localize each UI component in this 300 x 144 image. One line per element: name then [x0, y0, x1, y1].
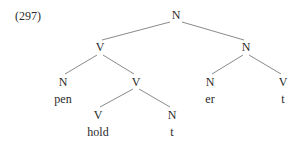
tree-edges [0, 0, 300, 144]
tree-node-v2: V [132, 75, 141, 90]
tree-edge [249, 55, 281, 74]
tree-leaf-word: hold [87, 125, 108, 140]
tree-node-n3: N [206, 75, 215, 90]
tree-edge [212, 55, 243, 74]
tree-node-v1: V [96, 40, 105, 55]
tree-node-n1: N [242, 40, 251, 55]
tree-node-v3: V [279, 75, 288, 90]
tree-edge [182, 22, 244, 40]
tree-edge [139, 89, 170, 107]
tree-node-root: N [172, 8, 181, 23]
tree-leaf-word: er [205, 92, 214, 107]
tree-node-n4: N [168, 108, 177, 123]
tree-leaf-word: t [170, 125, 173, 140]
tree-node-v4: V [94, 108, 103, 123]
tree-leaf-word: t [281, 92, 284, 107]
tree-node-n2: N [59, 75, 68, 90]
tree-edge [100, 89, 133, 107]
tree-edge [102, 22, 170, 40]
tree-leaf-word: pen [54, 92, 71, 107]
tree-edge [65, 55, 97, 74]
tree-edge [103, 55, 134, 74]
